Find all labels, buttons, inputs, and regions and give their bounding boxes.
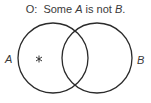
circle-a	[18, 23, 88, 93]
set-label-a: A	[5, 53, 12, 65]
asterisk-marker-icon	[36, 56, 42, 63]
circle-b	[62, 23, 132, 93]
set-label-b: B	[137, 54, 144, 66]
venn-diagram	[0, 0, 151, 103]
